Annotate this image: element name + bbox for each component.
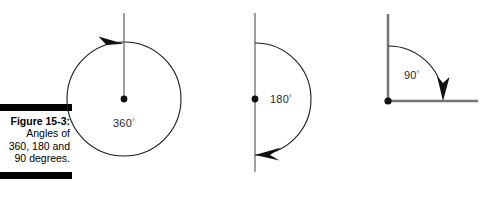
angle-label-360: 360° bbox=[113, 117, 135, 129]
angle-label-90: 90° bbox=[404, 69, 420, 81]
vertex-dot-90 bbox=[384, 97, 391, 104]
degree-symbol-360: ° bbox=[132, 118, 135, 125]
angle-value-360: 360 bbox=[113, 117, 132, 129]
figure-half-circle-180: 180° bbox=[222, 0, 342, 180]
degree-symbol-90: ° bbox=[417, 70, 420, 77]
degree-symbol-180: ° bbox=[289, 94, 292, 101]
figure-page: Figure 15-3: Angles of 360, 180 and 90 d… bbox=[0, 0, 495, 198]
arrowhead-180 bbox=[255, 148, 281, 161]
center-dot-180 bbox=[252, 96, 259, 103]
angle-label-180: 180° bbox=[270, 93, 292, 105]
angle-value-180: 180 bbox=[270, 93, 289, 105]
center-dot-360 bbox=[121, 96, 128, 103]
arrowhead-90 bbox=[437, 76, 450, 101]
figure-right-angle-90: 90° bbox=[370, 0, 495, 140]
angle-value-90: 90 bbox=[404, 69, 417, 81]
figure-full-circle-360: 360° bbox=[58, 0, 198, 180]
